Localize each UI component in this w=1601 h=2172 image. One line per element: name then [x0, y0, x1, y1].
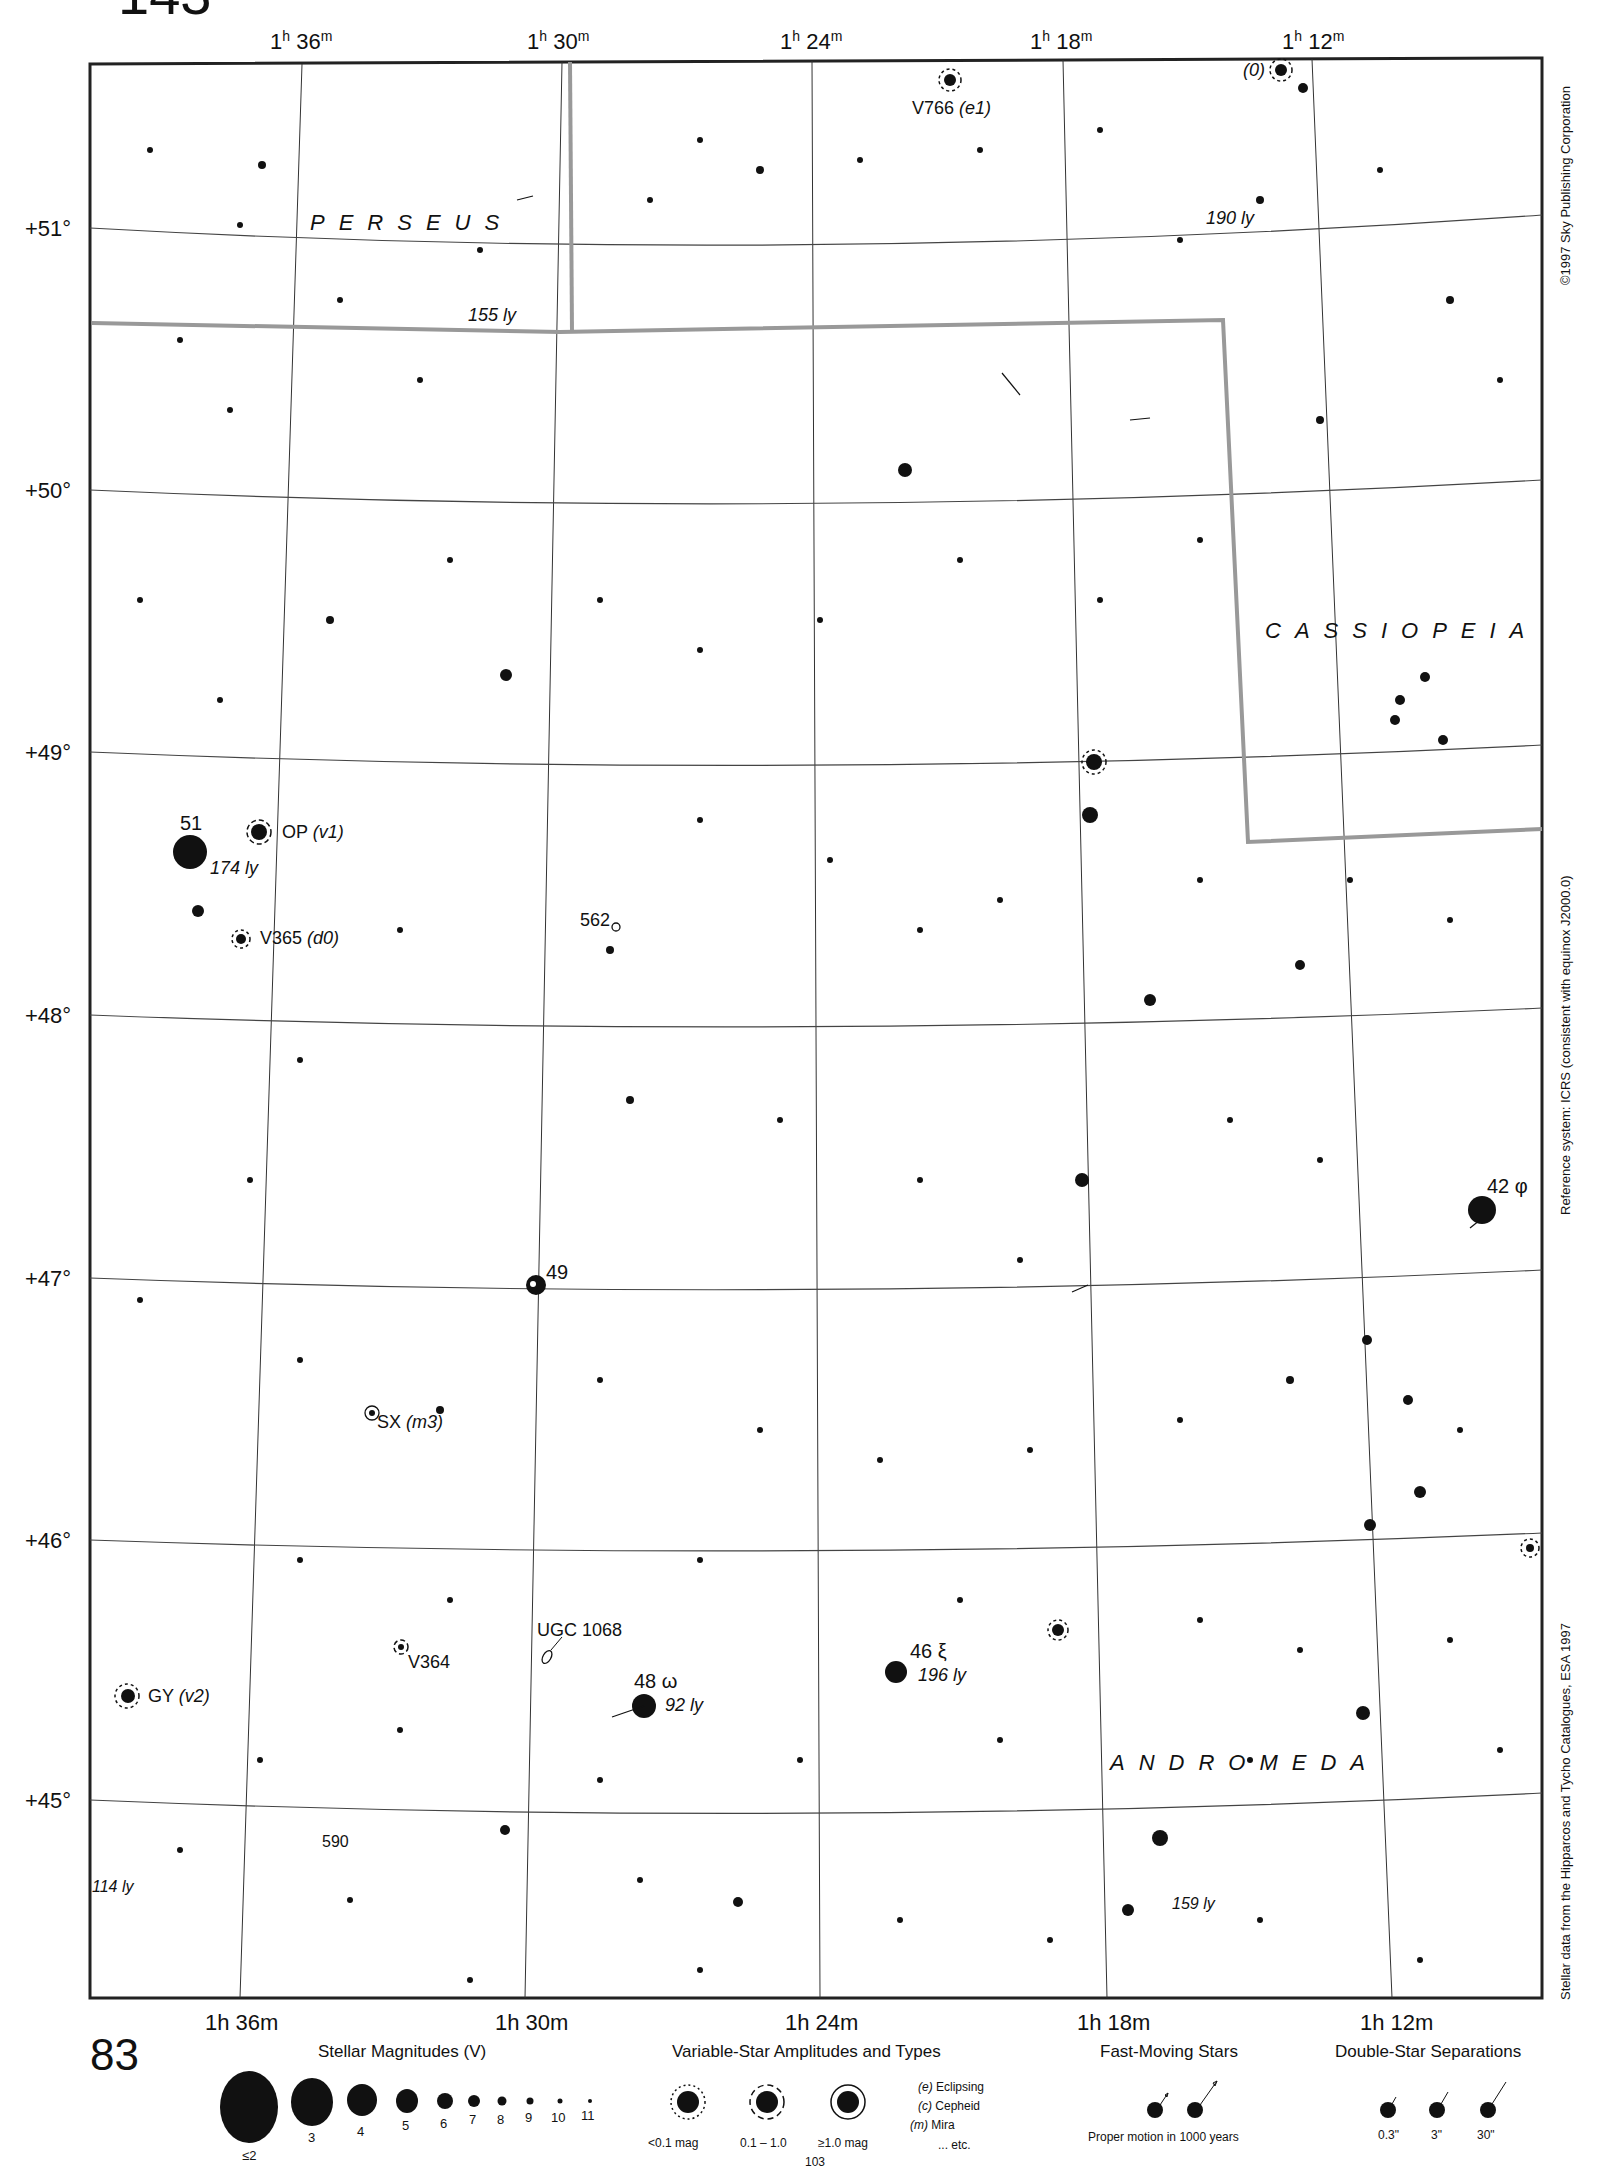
ra-label-bottom-1h30: 1h 30m — [495, 2010, 568, 2036]
page-number-bottom: 83 — [90, 2030, 139, 2080]
copyright-text: ©1997 Sky Publishing Corporation — [1558, 86, 1573, 285]
ra-label-top-1h12: 1h 12m — [1282, 28, 1344, 55]
mag-3: 3 — [308, 2130, 315, 2145]
ra-label-bottom-1h24: 1h 24m — [785, 2010, 858, 2036]
label-gy: GY (v2) — [148, 1686, 210, 1707]
label-star-42-phi: 42 φ — [1487, 1175, 1528, 1198]
dec-label-47: +47° — [25, 1266, 71, 1292]
type-cepheid: (c) Cepheid — [918, 2099, 980, 2113]
reference-system-text: Reference system: ICRS (consistent with … — [1558, 875, 1573, 1215]
legend-magnitudes-title: Stellar Magnitudes (V) — [318, 2042, 486, 2062]
mag-5: 5 — [402, 2118, 409, 2133]
star-chart — [0, 0, 1601, 2172]
mag-11: 11 — [581, 2108, 595, 2123]
type-eclipsing: (e) Eclipsing — [918, 2080, 984, 2094]
mag-9: 9 — [525, 2110, 532, 2125]
type-etc: ... etc. — [938, 2138, 971, 2152]
amp-small: <0.1 mag — [648, 2136, 698, 2150]
constellation-cassiopeia: CASSIOPEIA — [1265, 618, 1538, 644]
mag-6: 6 — [440, 2116, 447, 2131]
ra-label-bottom-1h36: 1h 36m — [205, 2010, 278, 2036]
ra-label-bottom-1h12: 1h 12m — [1360, 2010, 1433, 2036]
fast-caption: Proper motion in 1000 years — [1088, 2130, 1239, 2144]
data-source-text: Stellar data from the Hipparcos and Tych… — [1558, 1623, 1573, 2000]
amp-large: ≥1.0 mag — [818, 2136, 868, 2150]
stars — [121, 64, 1496, 1916]
type-mira: (m) Mira — [910, 2118, 955, 2132]
mag-7: 7 — [469, 2112, 476, 2127]
ra-grid — [240, 59, 1392, 1998]
sep-3: 3" — [1431, 2128, 1442, 2142]
mag-10: 10 — [551, 2110, 565, 2125]
label-155ly: 155 ly — [468, 305, 516, 326]
sep-30: 30" — [1477, 2128, 1495, 2142]
double-star-symbols — [1370, 2080, 1520, 2125]
fast-moving-symbols — [1120, 2075, 1240, 2125]
label-114ly: 114 ly — [92, 1878, 134, 1896]
sep-0.3: 0.3" — [1378, 2128, 1399, 2142]
page-number-top: 143 — [118, 0, 211, 27]
label-v364: V364 — [408, 1652, 450, 1673]
dec-label-51: +51° — [25, 216, 71, 242]
legend-doubles-title: Double-Star Separations — [1335, 2042, 1521, 2062]
label-196ly: 196 ly — [918, 1665, 966, 1686]
galaxy-562 — [612, 923, 620, 931]
next-page-number: 103 — [805, 2155, 825, 2169]
constellation-boundaries — [92, 62, 1542, 842]
ra-label-top-1h30: 1h 30m — [527, 28, 589, 55]
label-star-51: 51 — [180, 812, 202, 835]
ra-label-top-1h36: 1h 36m — [270, 28, 332, 55]
constellation-andromeda: ANDROMEDA — [1110, 1750, 1379, 1776]
label-159ly: 159 ly — [1172, 1895, 1215, 1913]
constellation-perseus: PERSEUS — [310, 210, 513, 236]
label-star-46-xi: 46 ξ — [910, 1640, 947, 1663]
legend-fast-title: Fast-Moving Stars — [1100, 2042, 1238, 2062]
dec-label-45: +45° — [25, 1788, 71, 1814]
label-562: 562 — [580, 910, 610, 931]
mag-4: 4 — [357, 2124, 364, 2139]
label-190ly: 190 ly — [1206, 208, 1254, 229]
label-v365: V365 (d0) — [260, 928, 339, 949]
legend-variables-title: Variable-Star Amplitudes and Types — [672, 2042, 941, 2062]
magnitude-scale — [220, 2070, 600, 2170]
label-174ly: 174 ly — [210, 858, 258, 879]
variable-rings — [115, 59, 1539, 1708]
label-star-49: 49 — [546, 1261, 568, 1284]
dec-label-48: +48° — [25, 1003, 71, 1029]
faint-stars — [137, 127, 1503, 1983]
dec-label-46: +46° — [25, 1528, 71, 1554]
ra-label-bottom-1h18: 1h 18m — [1077, 2010, 1150, 2036]
amp-mid: 0.1 – 1.0 — [740, 2136, 787, 2150]
label-590: 590 — [322, 1833, 349, 1851]
label-star-48-omega: 48 ω — [634, 1670, 677, 1693]
label-92ly: 92 ly — [665, 1695, 703, 1716]
label-op: OP (v1) — [282, 822, 344, 843]
mag-8: 8 — [497, 2112, 504, 2127]
label-ugc1068: UGC 1068 — [537, 1620, 622, 1641]
dec-label-50: +50° — [25, 478, 71, 504]
mag-2: ≤2 — [242, 2148, 256, 2163]
label-zero: (0) — [1243, 60, 1265, 81]
galaxy-ugc1068 — [540, 1649, 554, 1665]
ra-label-top-1h18: 1h 18m — [1030, 28, 1092, 55]
variable-stars — [236, 754, 1534, 1650]
proper-motion — [517, 196, 1480, 1717]
dec-label-49: +49° — [25, 740, 71, 766]
variable-amplitude-symbols — [660, 2078, 900, 2128]
label-v766: V766 (e1) — [912, 98, 991, 119]
label-sx: SX (m3) — [377, 1412, 443, 1433]
ra-label-top-1h24: 1h 24m — [780, 28, 842, 55]
